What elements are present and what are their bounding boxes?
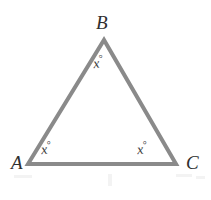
triangle-figure: B A C x° x° x° bbox=[0, 0, 211, 200]
angle-label-b: x° bbox=[92, 53, 104, 71]
vertex-label-b: B bbox=[96, 13, 108, 32]
vertex-label-c: C bbox=[186, 153, 199, 172]
angle-label-c: x° bbox=[136, 140, 148, 158]
vertex-label-a: A bbox=[11, 153, 23, 172]
angle-label-a: x° bbox=[40, 140, 52, 158]
